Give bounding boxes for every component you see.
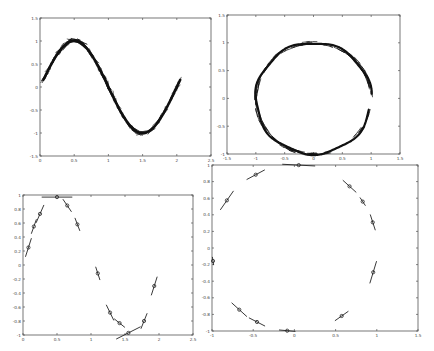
figure-canvas: 00.511.522.5-1.5-1-0.500.511.5 -1.5-1-0.… — [0, 0, 434, 351]
x-tick-label: 0 — [293, 333, 296, 338]
y-tick-label: -0.8 — [202, 312, 211, 317]
x-tick-label: 1 — [90, 337, 93, 342]
x-tick-label: 1 — [370, 156, 373, 161]
x-tick-label: -1.5 — [223, 156, 232, 161]
y-tick-label: -0.8 — [13, 319, 22, 324]
tangent-segment — [220, 191, 233, 210]
x-tick-label: 0 — [39, 158, 42, 163]
x-tick-label: 1 — [107, 158, 110, 163]
x-tick-label: 1.5 — [397, 156, 404, 161]
y-tick-label: 0 — [222, 96, 225, 101]
y-tick-label: -1 — [17, 333, 22, 338]
x-tick-label: -1 — [254, 156, 259, 161]
tangent-segment — [370, 261, 377, 283]
plot-circle-dense: -1.5-1-0.500.511.5-1-0.500.511.5 — [217, 13, 404, 162]
tangent-segment — [25, 238, 31, 257]
x-tick-label: 1 — [375, 333, 378, 338]
y-tick-label: 0.8 — [14, 207, 21, 212]
tangent-segment — [335, 311, 348, 321]
y-tick-label: 0 — [18, 263, 21, 268]
y-tick-label: 1.5 — [31, 16, 38, 21]
x-tick-label: -0.5 — [281, 156, 290, 161]
y-tick-label: 1 — [35, 39, 38, 44]
axes-frame — [212, 165, 418, 331]
tangent-segment — [212, 257, 213, 265]
y-tick-label: -1 — [206, 329, 211, 334]
tangent-segment — [141, 313, 147, 329]
x-tick-label: 0.5 — [54, 337, 61, 342]
y-tick-label: -0.4 — [13, 291, 22, 296]
x-tick-label: 0 — [22, 337, 25, 342]
x-tick-label: 0.5 — [332, 333, 339, 338]
tangent-segment — [151, 277, 157, 296]
y-tick-label: 0.5 — [218, 68, 225, 73]
y-tick-label: -0.5 — [217, 124, 226, 129]
x-tick-label: 1.5 — [122, 337, 129, 342]
tangent-segment — [106, 305, 114, 321]
y-tick-label: 1 — [222, 40, 225, 45]
x-tick-label: -1 — [210, 333, 215, 338]
x-tick-label: -0.5 — [249, 333, 258, 338]
y-tick-label: 0.5 — [31, 62, 38, 67]
x-tick-label: 0 — [312, 156, 315, 161]
plot-circle-sparse: -1-0.500.511.5-1-0.8-0.6-0.4-0.200.20.40… — [202, 163, 422, 339]
y-tick-label: -0.6 — [13, 305, 22, 310]
y-tick-label: 1 — [207, 163, 210, 168]
x-tick-label: 1.5 — [415, 333, 422, 338]
y-tick-label: 0.4 — [14, 235, 21, 240]
x-tick-label: 2.5 — [190, 337, 197, 342]
axes-frame — [40, 18, 211, 156]
tangent-segment — [232, 303, 247, 317]
x-tick-label: 2 — [175, 158, 178, 163]
y-tick-label: -0.4 — [202, 279, 211, 284]
tangent-segment — [249, 318, 265, 326]
x-tick-label: 0.5 — [71, 158, 78, 163]
y-tick-label: -0.2 — [13, 277, 22, 282]
axes-frame — [227, 15, 400, 154]
tangent-segment — [63, 199, 72, 212]
y-tick-label: 0.6 — [14, 221, 21, 226]
y-tick-label: -1.5 — [30, 154, 39, 159]
y-tick-label: 1 — [18, 193, 21, 198]
y-tick-label: 0 — [207, 246, 210, 251]
y-tick-label: 0 — [35, 85, 38, 90]
y-tick-label: -0.2 — [202, 262, 211, 267]
x-tick-label: 2 — [158, 337, 161, 342]
tangent-segment — [247, 170, 265, 180]
y-tick-label: 1.5 — [218, 13, 225, 18]
y-tick-label: -0.5 — [30, 108, 39, 113]
tangent-segment — [36, 205, 44, 223]
plot-sine-sparse: 00.511.522.5-1-0.8-0.6-0.4-0.200.20.40.6… — [13, 193, 197, 343]
y-tick-label: 0.6 — [203, 196, 210, 201]
y-tick-label: 0.2 — [14, 249, 21, 254]
y-tick-label: -1 — [221, 152, 226, 157]
x-tick-label: 0.5 — [339, 156, 346, 161]
y-tick-label: 0.4 — [203, 212, 210, 217]
x-tick-label: 1.5 — [139, 158, 146, 163]
plot-sine-dense: 00.511.522.5-1.5-1-0.500.511.5 — [30, 16, 215, 164]
axes-frame — [23, 195, 193, 335]
tangent-segment — [116, 327, 140, 339]
y-tick-label: 0.8 — [203, 179, 210, 184]
tangent-segment — [114, 319, 125, 328]
y-tick-label: -0.6 — [202, 295, 211, 300]
tangent-segment — [343, 180, 356, 192]
y-tick-label: 0.2 — [203, 229, 210, 234]
y-tick-label: -1 — [34, 131, 39, 136]
